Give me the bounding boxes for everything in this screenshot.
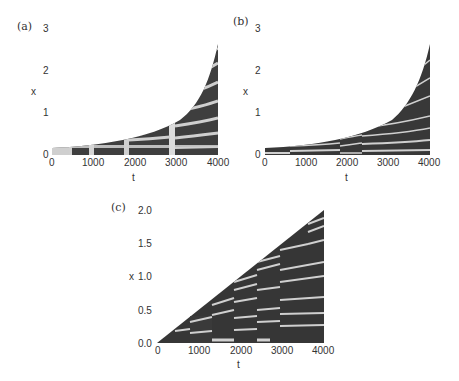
panel-c-xtick: 2000 — [230, 345, 252, 356]
panel-c-ytick: 2.0 — [138, 205, 152, 216]
panel-b-xtick: 1000 — [295, 157, 317, 168]
panel-a-xtick: 4000 — [207, 157, 229, 168]
panel-a-heatmap — [0, 0, 459, 381]
panel-b-ytick: 1 — [255, 107, 261, 118]
panel-c-xlabel: t — [237, 359, 240, 370]
panel-a-ytick: 1 — [43, 107, 49, 118]
panel-b-ytick: 3 — [255, 23, 261, 34]
panel-c-ytick: 0.5 — [138, 305, 152, 316]
panel-c-xtick: 0 — [155, 345, 161, 356]
panel-c-ytick: 1.5 — [138, 238, 152, 249]
panel-c-ytick: 1.0 — [138, 271, 152, 282]
panel-b-xlabel: t — [345, 172, 348, 183]
panel-b-xtick: 2000 — [336, 157, 358, 168]
panel-a-ytick: 2 — [43, 65, 49, 76]
panel-c-xtick: 3000 — [271, 345, 293, 356]
panel-a-ytick: 3 — [43, 23, 49, 34]
panel-c-ytick: 0.0 — [138, 338, 152, 349]
panel-c-ylabel: x — [129, 271, 134, 282]
panel-a-xtick: 2000 — [124, 157, 146, 168]
panel-b-xtick: 4000 — [418, 157, 440, 168]
panel-c-xtick: 1000 — [188, 345, 210, 356]
panel-a-xtick: 0 — [49, 157, 55, 168]
panel-c-xtick: 4000 — [312, 345, 334, 356]
panel-b-xtick: 3000 — [377, 157, 399, 168]
panel-a-xtick: 3000 — [165, 157, 187, 168]
panel-b-ylabel: x — [243, 86, 248, 97]
panel-a-xlabel: t — [132, 172, 135, 183]
panel-b-xtick: 0 — [262, 157, 268, 168]
panel-a-ylabel: x — [31, 86, 36, 97]
panel-a-ytick: 0 — [43, 149, 49, 160]
panel-b-label: (b) — [233, 15, 249, 28]
panel-c-label: (c) — [111, 201, 126, 214]
panel-b-ytick: 2 — [255, 65, 261, 76]
panel-b-ytick: 0 — [255, 149, 261, 160]
panel-a-xtick: 1000 — [82, 157, 104, 168]
